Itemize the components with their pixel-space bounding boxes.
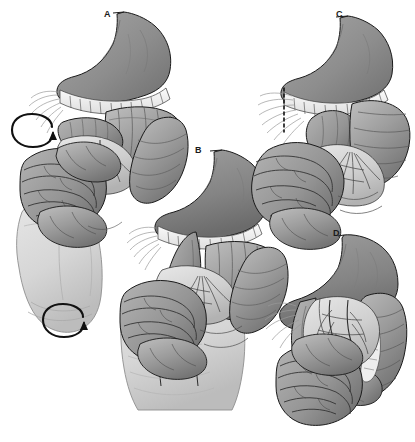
surgical-figure-canvas bbox=[0, 0, 415, 442]
panel-label-b: B bbox=[195, 145, 202, 155]
panel-label-d: D bbox=[333, 228, 340, 238]
panel-label-a: A bbox=[104, 9, 111, 19]
panel-label-c: C bbox=[336, 9, 343, 19]
